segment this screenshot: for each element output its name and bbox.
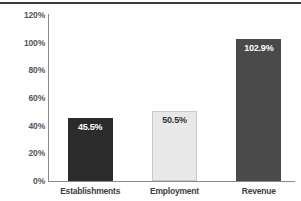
bar-value-label: 50.5% [153,115,196,125]
bars-container: 45.5%Establishments50.5%Employment102.9%… [48,0,301,201]
y-axis-tick-labels: 0%20%40%60%80%100%120% [0,0,45,201]
y-axis-tick-label: 60% [1,93,45,103]
bar-value-label: 45.5% [69,122,112,132]
y-axis-tick-label: 80% [1,65,45,75]
bar[interactable]: 102.9% [236,39,281,181]
bar-group: 102.9%Revenue [236,0,281,201]
x-axis-category-label: Establishments [50,186,131,196]
bar-group: 45.5%Establishments [68,0,113,201]
y-axis-tick-label: 120% [1,10,45,20]
y-axis-tick-label: 0% [1,176,45,186]
bar-chart-figure: 0%20%40%60%80%100%120% 45.5%Establishmen… [0,0,301,201]
bar-group: 50.5%Employment [152,0,197,201]
y-axis-tick-label: 40% [1,121,45,131]
bar[interactable]: 50.5% [152,111,197,181]
bar[interactable]: 45.5% [68,118,113,181]
x-axis-category-label: Employment [134,186,215,196]
bar-value-label: 102.9% [237,43,280,53]
y-axis-tick-label: 20% [1,148,45,158]
y-axis-tick-label: 100% [1,38,45,48]
x-axis-category-label: Revenue [218,186,299,196]
